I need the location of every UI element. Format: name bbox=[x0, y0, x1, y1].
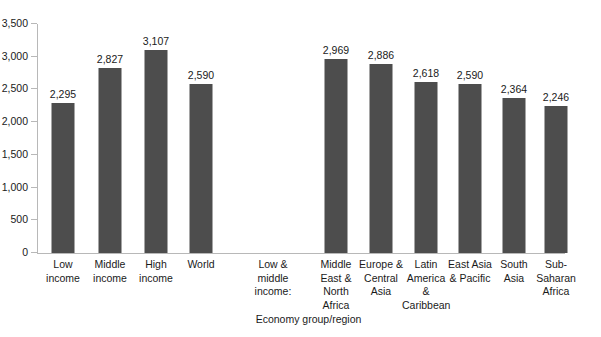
x-axis-line bbox=[37, 253, 565, 254]
x-axis-category-label: Sub-SaharanAfrica bbox=[532, 258, 580, 299]
bar-slot: 2,827 bbox=[88, 24, 132, 253]
x-axis-category-label-line: Middle bbox=[312, 258, 360, 272]
y-axis-tick-label: 2,500 bbox=[0, 82, 28, 95]
bar-value-label: 2,590 bbox=[457, 69, 483, 81]
x-axis-category-label: Europe &CentralAsia bbox=[357, 258, 405, 299]
bar[interactable] bbox=[325, 59, 348, 253]
x-axis-category-label-line: Saharan bbox=[532, 272, 580, 286]
bar-slot: 2,590 bbox=[448, 24, 492, 253]
x-axis-category-label-line: Low & bbox=[249, 258, 297, 272]
bar[interactable] bbox=[370, 64, 393, 253]
bar-chart: 3,5003,0002,5002,0001,5001,0005000 2,295… bbox=[0, 0, 601, 337]
plot-area: 2,2952,8273,1072,5902,9692,8862,6182,590… bbox=[37, 24, 565, 253]
x-axis-category-label-line: North bbox=[312, 285, 360, 299]
x-axis-category-label-line: middle bbox=[249, 272, 297, 286]
bar-slot: 2,590 bbox=[179, 24, 223, 253]
bar-value-label: 2,618 bbox=[413, 67, 439, 79]
x-axis-category-label-line: Low bbox=[39, 258, 87, 272]
x-axis-category-label-line: & Pacific bbox=[446, 272, 494, 286]
bar[interactable] bbox=[99, 68, 122, 253]
bar[interactable] bbox=[503, 98, 526, 253]
bar-slot: 3,107 bbox=[134, 24, 178, 253]
x-axis-category-label: Highincome bbox=[132, 258, 180, 285]
bar[interactable] bbox=[145, 50, 168, 253]
bar-slot: 2,969 bbox=[314, 24, 358, 253]
x-axis-category-label-line: World bbox=[177, 258, 225, 272]
x-axis-category-label-line: High bbox=[132, 258, 180, 272]
x-axis-category-label: LatinAmerica &Caribbean bbox=[402, 258, 450, 312]
bar-slot: 2,246 bbox=[534, 24, 578, 253]
bar-value-label: 2,969 bbox=[323, 44, 349, 56]
bar[interactable] bbox=[415, 82, 438, 253]
bar-value-label: 2,246 bbox=[543, 91, 569, 103]
x-axis-category-label-line: Middle bbox=[86, 258, 134, 272]
y-axis-tick-label: 1,500 bbox=[0, 148, 28, 161]
y-axis-tick-label: 1,000 bbox=[0, 181, 28, 194]
x-axis-category-label-line: Africa bbox=[532, 285, 580, 299]
x-axis-category-label: World bbox=[177, 258, 225, 272]
bar[interactable] bbox=[52, 103, 75, 253]
y-axis-tick-label: 3,000 bbox=[0, 50, 28, 63]
x-axis-category-label-line: Latin bbox=[402, 258, 450, 272]
bar[interactable] bbox=[459, 84, 482, 253]
bar-value-label: 2,295 bbox=[50, 88, 76, 100]
y-axis-tick-label: 2,000 bbox=[0, 115, 28, 128]
x-axis-category-label-line: Sub- bbox=[532, 258, 580, 272]
x-axis-category-label: East Asia& Pacific bbox=[446, 258, 494, 285]
x-axis-category-label: Middleincome bbox=[86, 258, 134, 285]
y-axis-tick-label: 0 bbox=[0, 246, 28, 259]
x-axis-category-label-line: Europe & bbox=[357, 258, 405, 272]
x-axis-category-label-line: East & bbox=[312, 272, 360, 286]
y-axis-tick-label: 3,500 bbox=[0, 17, 28, 30]
x-axis-category-label-line: income: bbox=[249, 285, 297, 299]
x-axis-category-label-line: America & bbox=[402, 272, 450, 299]
bar-value-label: 2,590 bbox=[188, 69, 214, 81]
x-axis-category-label-line: income bbox=[132, 272, 180, 286]
bar-slot: 2,295 bbox=[41, 24, 85, 253]
x-axis-title-text: Economy group/region bbox=[256, 313, 362, 325]
y-axis-tick-label: 500 bbox=[0, 213, 28, 226]
x-axis-category-label: Lowincome bbox=[39, 258, 87, 285]
bar[interactable] bbox=[545, 106, 568, 253]
bar[interactable] bbox=[190, 84, 213, 253]
x-axis-category-label-line: Caribbean bbox=[402, 299, 450, 313]
x-axis-title: Economy group/region bbox=[0, 313, 601, 325]
bar-slot: 2,364 bbox=[492, 24, 536, 253]
x-axis-category-label: South Asia bbox=[490, 258, 538, 285]
bar-slot: 2,618 bbox=[404, 24, 448, 253]
x-axis-category-label: Low &middleincome: bbox=[249, 258, 297, 299]
x-axis-category-label-line: income bbox=[86, 272, 134, 286]
bar-slot: 2,886 bbox=[359, 24, 403, 253]
x-axis-category-label-line: Asia bbox=[357, 285, 405, 299]
bar-value-label: 2,364 bbox=[501, 83, 527, 95]
x-axis-category-label: MiddleEast &NorthAfrica bbox=[312, 258, 360, 312]
x-axis-category-label-line: East Asia bbox=[446, 258, 494, 272]
bar-value-label: 2,827 bbox=[97, 53, 123, 65]
x-axis-category-label-line: Africa bbox=[312, 299, 360, 313]
x-axis-category-label-line: South Asia bbox=[490, 258, 538, 285]
bar-value-label: 2,886 bbox=[368, 49, 394, 61]
x-axis-category-label-line: Central bbox=[357, 272, 405, 286]
x-axis-category-label-line: income bbox=[39, 272, 87, 286]
bar-value-label: 3,107 bbox=[143, 35, 169, 47]
